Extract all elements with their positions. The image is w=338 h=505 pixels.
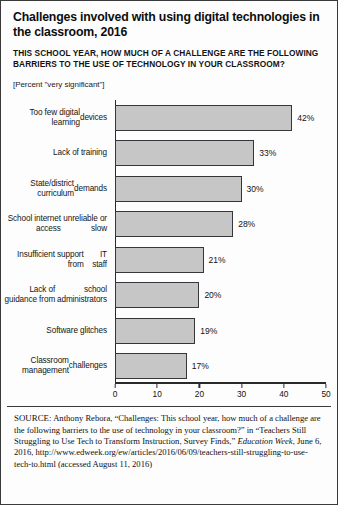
bar-row: 20%	[115, 282, 326, 308]
bar	[115, 282, 199, 308]
bar-value-label: 19%	[200, 326, 217, 336]
category-label: State/district curriculumdemands	[1, 176, 111, 202]
x-axis-ticks: 01020304050	[115, 384, 326, 406]
bar	[115, 247, 204, 273]
bar	[115, 140, 254, 166]
category-label: Software glitches	[1, 318, 111, 344]
bar	[115, 176, 242, 202]
bar	[115, 211, 233, 237]
bar	[115, 318, 195, 344]
category-label: Lack of guidance fromschool administrato…	[1, 282, 111, 308]
bar-row: 30%	[115, 176, 326, 202]
bar-value-label: 28%	[238, 219, 255, 229]
x-tick-mark	[199, 384, 200, 388]
x-tick: 10	[153, 384, 162, 399]
category-label: Too few digital learningdevices	[1, 105, 111, 131]
x-tick-mark	[325, 384, 326, 388]
figure-subtitle: THIS SCHOOL YEAR, HOW MUCH OF A CHALLENG…	[13, 48, 325, 71]
x-tick-label: 0	[113, 389, 118, 399]
x-tick: 50	[321, 384, 330, 399]
x-tick-label: 30	[237, 389, 246, 399]
x-tick-label: 50	[321, 389, 330, 399]
source-note: SOURCE: Anthony Rebora, “Challenges: Thi…	[1, 407, 337, 470]
category-axis-labels: Too few digital learningdevicesLack of t…	[1, 100, 111, 384]
bar-row: 17%	[115, 353, 326, 379]
bar-value-label: 33%	[259, 148, 276, 158]
category-label: School internet accessunreliable or slow	[1, 211, 111, 237]
bar-row: 42%	[115, 105, 326, 131]
bar-value-label: 30%	[247, 184, 264, 194]
figure-title: Challenges involved with using digital t…	[13, 10, 325, 41]
bar-series: 42%33%30%28%21%20%19%17%	[115, 100, 326, 384]
bar	[115, 105, 292, 131]
plot-area: 42%33%30%28%21%20%19%17%	[115, 100, 326, 384]
source-publication: Education Week	[237, 436, 292, 446]
source-label: SOURCE:	[14, 413, 51, 423]
category-label: Insufficient support fromIT staff	[1, 247, 111, 273]
bar-row: 19%	[115, 318, 326, 344]
x-tick: 40	[279, 384, 288, 399]
figure-header: Challenges involved with using digital t…	[1, 1, 337, 89]
bar-row: 33%	[115, 140, 326, 166]
chart-plot: Too few digital learningdevicesLack of t…	[1, 96, 337, 406]
bar-value-label: 17%	[192, 361, 209, 371]
bar-row: 21%	[115, 247, 326, 273]
bar-value-label: 21%	[209, 255, 226, 265]
x-tick-label: 10	[153, 389, 162, 399]
x-tick-mark	[157, 384, 158, 388]
x-tick: 30	[237, 384, 246, 399]
x-tick: 0	[113, 384, 118, 399]
bar	[115, 353, 187, 379]
x-tick-mark	[114, 384, 115, 388]
x-tick-label: 20	[195, 389, 204, 399]
bar-value-label: 20%	[204, 290, 221, 300]
x-tick-mark	[241, 384, 242, 388]
figure-units-note: [Percent "very significant"]	[13, 80, 325, 89]
bar-row: 28%	[115, 211, 326, 237]
category-label: Lack of training	[1, 140, 111, 166]
x-tick: 20	[195, 384, 204, 399]
bar-value-label: 42%	[297, 113, 314, 123]
x-tick-mark	[283, 384, 284, 388]
figure-container: Challenges involved with using digital t…	[0, 0, 338, 505]
x-tick-label: 40	[279, 389, 288, 399]
category-label: Classroom managementchallenges	[1, 353, 111, 379]
